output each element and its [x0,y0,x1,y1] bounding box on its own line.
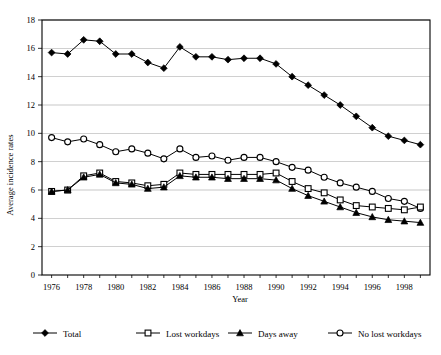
marker-open-circle [177,146,183,152]
y-tick-label-14: 14 [27,72,36,82]
marker-open-circle [273,159,279,165]
marker-open-square [289,179,295,185]
x-tick-label-1986: 1986 [203,282,220,292]
marker-open-square [273,170,279,176]
x-tick-label-1980: 1980 [107,282,124,292]
marker-open-circle [321,174,327,180]
marker-open-circle [337,330,343,336]
marker-open-circle [401,198,407,204]
marker-open-square [417,204,423,210]
legend-label: Total [63,329,82,339]
marker-open-square [305,186,311,192]
marker-open-circle [385,196,391,202]
y-tick-label-18: 18 [27,15,36,25]
legend-label: Days away [258,329,298,339]
marker-open-circle [225,157,231,163]
marker-open-square [401,207,407,213]
x-tick-label-1984: 1984 [171,282,189,292]
y-tick-label-10: 10 [27,128,36,138]
marker-open-circle [353,184,359,190]
marker-open-circle [193,154,199,160]
x-tick-label-1994: 1994 [332,282,350,292]
x-axis-title: Year [232,294,248,304]
x-tick-label-1976: 1976 [43,282,60,292]
marker-open-square [369,204,375,210]
marker-open-circle [145,150,151,156]
y-tick-label-6: 6 [31,185,35,195]
legend-label: No lost workdays [358,329,422,339]
chart-container: 024681012141618 197619781980198219841986… [0,0,441,355]
marker-open-circle [65,139,71,145]
x-tick-label-1996: 1996 [364,282,381,292]
x-tick-label-1998: 1998 [396,282,413,292]
marker-open-circle [49,135,55,141]
marker-open-square [321,190,327,196]
y-tick-label-8: 8 [31,157,35,167]
x-tick-label-1990: 1990 [268,282,285,292]
marker-open-square [385,206,391,212]
marker-open-square [353,203,359,209]
marker-open-circle [81,136,87,142]
marker-open-circle [289,164,295,170]
marker-open-square [337,197,343,203]
marker-open-circle [241,154,247,160]
y-tick-label-2: 2 [31,242,35,252]
x-tick-label-1982: 1982 [139,282,156,292]
incidence-rates-line-chart: 024681012141618 197619781980198219841986… [0,0,441,355]
marker-open-circle [129,146,135,152]
y-axis-title: Average incidence rates [5,134,15,215]
marker-open-circle [161,156,167,162]
marker-open-circle [113,149,119,155]
marker-open-circle [209,153,215,159]
marker-open-circle [369,188,375,194]
marker-open-circle [257,154,263,160]
y-tick-label-0: 0 [31,270,35,280]
marker-open-circle [337,180,343,186]
x-tick-label-1992: 1992 [300,282,317,292]
y-tick-label-12: 12 [27,100,36,110]
marker-open-square [145,330,151,336]
x-tick-label-1978: 1978 [75,282,92,292]
legend-label: Lost workdays [166,329,220,339]
x-tick-label-1988: 1988 [236,282,253,292]
marker-open-circle [97,142,103,148]
marker-open-circle [305,167,311,173]
y-tick-label-16: 16 [27,43,36,53]
